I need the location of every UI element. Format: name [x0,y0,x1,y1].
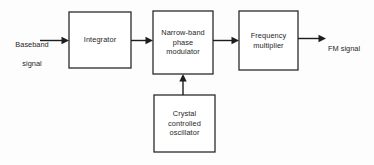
block-frequency-multiplier[interactable] [239,11,298,70]
arrowhead-multiplier-to-fm-output [319,35,327,42]
input-label-baseband-signal: Baseband signal [6,30,58,78]
arrowhead-baseband-to-integrator [62,37,70,44]
baseband-signal-line-2: signal [6,59,58,69]
output-label-fm-signal: FM signal [328,34,372,63]
block-diagram: Integrator Narrow-band phase modulator F… [0,0,374,165]
diagram-canvas [0,0,374,165]
baseband-signal-line-1: Baseband [6,40,58,50]
arrowhead-modulator-to-multiplier [232,37,240,44]
fm-signal-line-1: FM signal [328,44,372,54]
arrowhead-oscillator-to-modulator [179,74,186,82]
arrowhead-integrator-to-modulator [146,37,154,44]
block-crystal-oscillator[interactable] [154,95,215,152]
block-phase-modulator[interactable] [153,11,213,74]
block-integrator[interactable] [69,12,131,68]
